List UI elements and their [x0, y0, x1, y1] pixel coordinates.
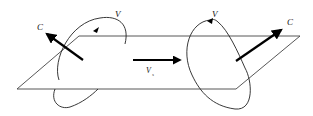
right-vortex-loop: [187, 19, 250, 109]
left-axis-arrow: [47, 34, 83, 60]
left-vortex-loop-lower: [54, 89, 98, 108]
right-vortex-label: V: [212, 9, 219, 19]
right-axis-arrow: [236, 30, 281, 61]
left-vortex-label: V: [115, 9, 122, 19]
vortex-plane-diagram: V C V s V C: [0, 0, 313, 116]
right-axis-label: C: [287, 17, 294, 27]
left-axis-label: C: [37, 22, 44, 32]
translation-subscript: s: [152, 72, 154, 77]
left-vortex-direction-icon: [93, 27, 99, 33]
